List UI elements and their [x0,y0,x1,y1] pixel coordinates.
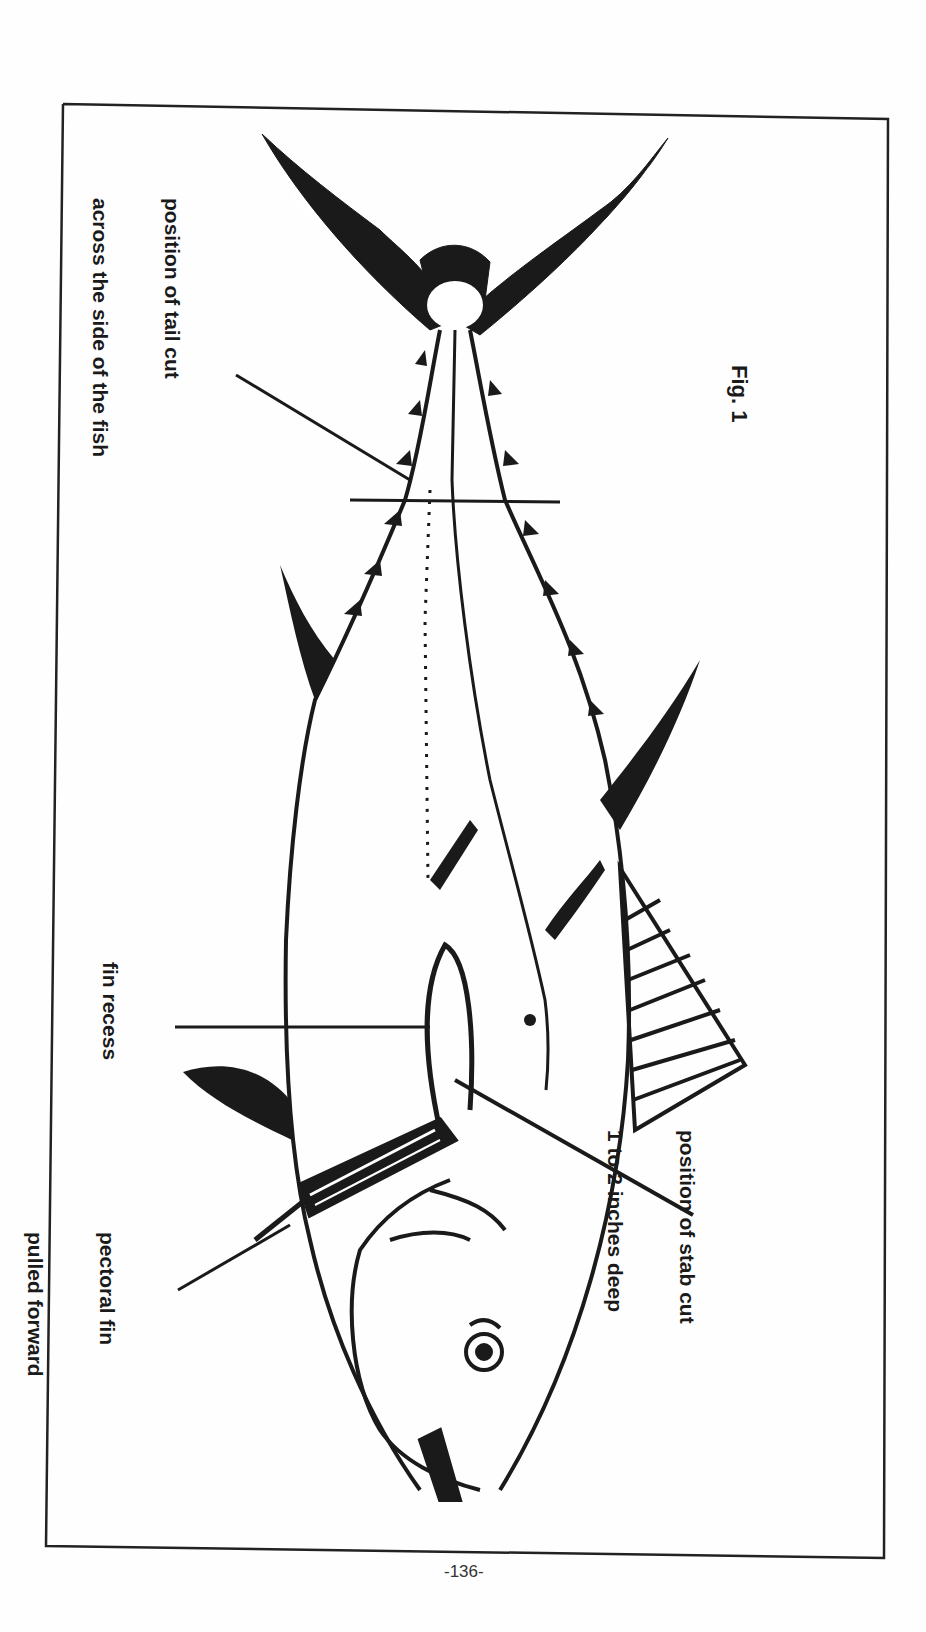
tail-cut-line-2: across the side of the fish [88,198,112,457]
fish-head [352,1180,505,1500]
stab-cut-line-2: 1 to 2 inches deep [603,1130,627,1324]
finlets [344,350,604,716]
anal-fin [600,660,700,830]
fin-recess-annotation: fin recess [50,962,170,1060]
pectoral-fin-line-1: pectoral fin [95,1232,119,1377]
pectoral-fin-line-2: pulled forward [23,1232,47,1377]
pelvic-fin [183,1066,292,1140]
fin-recess-line-1: fin recess [98,962,122,1060]
tail-cut-line-1: position of tail cut [160,198,184,457]
first-dorsal-fin [620,868,745,1130]
pectoral-pointer [178,1225,290,1290]
page-number: -136- [444,1562,484,1582]
pectoral-fin-annotation: pectoral fin pulled forward [0,1232,167,1377]
stab-cut-line-1: position of stab cut [675,1130,699,1324]
ventral-notch [430,820,478,890]
tail-cut-line [350,500,560,502]
figure-label: Fig. 1 [726,365,752,422]
stab-cut-annotation: position of stab cut 1 to 2 inches deep [555,1130,747,1324]
tail-cut-annotation: position of tail cut across the side of … [40,198,232,457]
document-page: Fig. 1 position of tail cut across the s… [0,0,926,1632]
tail-cut-pointer [236,375,410,480]
